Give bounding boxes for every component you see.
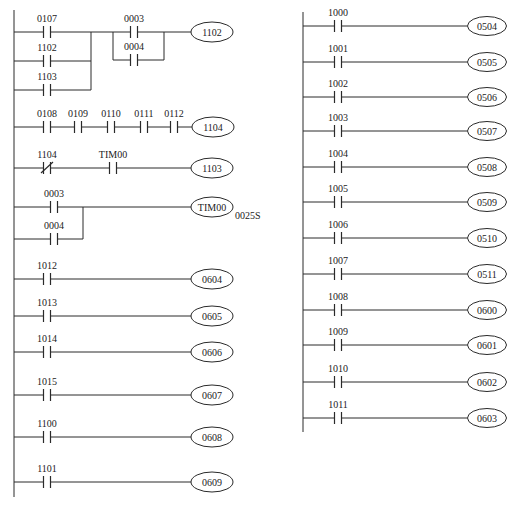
parallel-branch-block: 010711021103 xyxy=(14,13,91,96)
contact-label: 0004 xyxy=(44,220,64,231)
coil-label: 0607 xyxy=(202,390,222,401)
output-coil: 1102 xyxy=(191,22,233,42)
coil-label: 0601 xyxy=(477,340,497,351)
no-contact: 1100 xyxy=(37,418,57,443)
contact-label: 1010 xyxy=(328,363,348,374)
no-contact: 1010 xyxy=(328,363,348,388)
coil-label: 0604 xyxy=(202,274,222,285)
no-contact: 1012 xyxy=(37,260,57,285)
rung-0510: 10060510 xyxy=(303,219,507,248)
output-coil: 0606 xyxy=(191,342,233,362)
coil-label: 1104 xyxy=(203,122,223,133)
contact-label: 1009 xyxy=(328,326,348,337)
contact-label: 0109 xyxy=(68,108,88,119)
no-contact: 1014 xyxy=(37,333,57,358)
output-coil: 0506 xyxy=(468,88,507,107)
contact-label: 1100 xyxy=(37,418,57,429)
no-contact: 0112 xyxy=(164,108,184,133)
output-coil: 0604 xyxy=(191,269,233,289)
contact-label: 1013 xyxy=(37,297,57,308)
contact-label: TIM00 xyxy=(99,149,127,160)
rung-0602: 10100602 xyxy=(303,363,507,392)
output-coil: 0509 xyxy=(468,193,507,212)
no-contact: 0003 xyxy=(44,188,64,213)
contact-label: 0108 xyxy=(37,108,57,119)
output-coil: 0507 xyxy=(468,122,507,141)
coil-label: 0600 xyxy=(477,305,497,316)
contact-label: 1001 xyxy=(328,43,348,54)
no-contact: 1101 xyxy=(37,463,57,488)
nc-contact: 1104 xyxy=(37,149,57,174)
no-contact: 1015 xyxy=(37,376,57,401)
output-coil: 0505 xyxy=(468,53,507,72)
output-coil: 0605 xyxy=(191,306,233,326)
contact-label: 0107 xyxy=(37,13,57,24)
contact-label: 1101 xyxy=(37,463,57,474)
contact-label: 1006 xyxy=(328,219,348,230)
contact-label: 1007 xyxy=(328,255,348,266)
no-contact: 0109 xyxy=(68,108,88,133)
output-coil: 0603 xyxy=(468,409,507,428)
contact-label: 1104 xyxy=(37,149,57,160)
no-contact: 1009 xyxy=(328,326,348,351)
parallel-branch-block: 00030004 xyxy=(14,188,83,245)
coil-label: 0504 xyxy=(477,21,497,32)
output-coil: 1103 xyxy=(191,158,233,178)
rung-0601: 10090601 xyxy=(303,326,507,355)
rung-0606: 10140606 xyxy=(14,333,233,362)
contact-label: 0003 xyxy=(124,13,144,24)
contact-label: 1003 xyxy=(328,112,348,123)
contact-label: 0110 xyxy=(101,108,121,119)
no-contact: 0004 xyxy=(44,220,64,245)
output-coil: 0511 xyxy=(468,265,507,284)
output-coil: 0602 xyxy=(468,373,507,392)
no-contact: 0110 xyxy=(101,108,121,133)
no-contact: 1102 xyxy=(37,42,57,67)
no-contact: 0107 xyxy=(37,13,57,38)
no-contact: 1013 xyxy=(37,297,57,322)
coil-label: 0505 xyxy=(477,57,497,68)
no-contact: 0004 xyxy=(124,41,144,66)
ladder-diagram: 0107110211030003000411020108010901100111… xyxy=(0,0,517,505)
no-contact: 1008 xyxy=(328,291,348,316)
contact-label: 1015 xyxy=(37,376,57,387)
output-coil: 0608 xyxy=(191,427,233,447)
contact-label: 1008 xyxy=(328,291,348,302)
contact-label: 1012 xyxy=(37,260,57,271)
coil-label: 1103 xyxy=(202,163,222,174)
no-contact: 1005 xyxy=(328,183,348,208)
contact-label: 1005 xyxy=(328,183,348,194)
no-contact: 1103 xyxy=(37,71,57,96)
output-coil: 0609 xyxy=(191,472,233,492)
no-contact: 0111 xyxy=(134,108,153,133)
rung-0508: 10040508 xyxy=(303,148,507,177)
rung-tim00: 00030004TIM000025S xyxy=(14,188,261,245)
contact-label: 1014 xyxy=(37,333,57,344)
right-ladder-column: 1000050410010505100205061003050710040508… xyxy=(303,7,507,432)
rung-1102: 010711021103000300041102 xyxy=(14,13,233,96)
output-coil: 0508 xyxy=(468,158,507,177)
rung-0608: 11000608 xyxy=(14,418,233,447)
no-contact: 0108 xyxy=(37,108,57,133)
coil-label: 0606 xyxy=(202,347,222,358)
rung-0511: 10070511 xyxy=(303,255,507,284)
timer-setting: 0025S xyxy=(235,210,261,221)
no-contact: 1004 xyxy=(328,148,348,173)
coil-label: 0609 xyxy=(202,477,222,488)
contact-label: 1011 xyxy=(328,399,348,410)
rung-0604: 10120604 xyxy=(14,260,233,289)
rung-0505: 10010505 xyxy=(303,43,507,72)
output-coil: TIM000025S xyxy=(191,197,261,221)
no-contact: 1003 xyxy=(328,112,348,137)
coil-label: 0608 xyxy=(202,432,222,443)
rung-0600: 10080600 xyxy=(303,291,507,320)
no-contact: 1001 xyxy=(328,43,348,68)
contact-label: 1103 xyxy=(37,71,57,82)
rung-1104: 010801090110011101121104 xyxy=(14,108,234,137)
contact-label: 0112 xyxy=(164,108,184,119)
rung-0609: 11010609 xyxy=(14,463,233,492)
rung-1103: 1104TIM001103 xyxy=(14,149,233,178)
coil-label: TIM00 xyxy=(198,202,226,213)
contact-label: 1102 xyxy=(37,42,57,53)
rung-0507: 10030507 xyxy=(303,112,507,141)
